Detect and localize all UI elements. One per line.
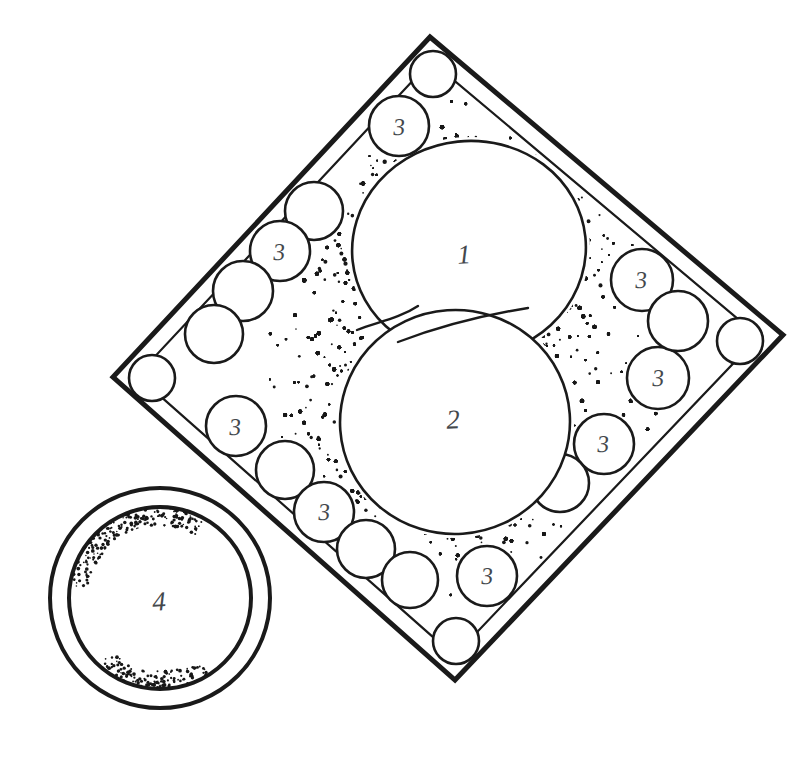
corner-circle <box>129 355 175 401</box>
satellite-circle <box>648 291 708 351</box>
reference-label-4: 4 <box>152 588 167 616</box>
reference-label-3: 3 <box>651 366 664 391</box>
figure-canvas <box>0 0 811 764</box>
satellite-circle <box>185 305 243 363</box>
reference-label-3: 3 <box>228 415 241 440</box>
reference-label-3: 3 <box>392 115 405 140</box>
corner-circle <box>410 51 456 97</box>
satellite-circle <box>382 552 438 608</box>
reference-label-3: 3 <box>634 268 647 293</box>
reference-label-3: 3 <box>596 432 609 457</box>
corner-circle <box>433 618 479 664</box>
corner-circle <box>717 318 763 364</box>
reference-label-2: 2 <box>446 406 461 434</box>
reference-label-1: 1 <box>457 241 472 269</box>
reference-label-3: 3 <box>272 240 285 265</box>
reference-label-3: 3 <box>317 500 330 525</box>
technical-drawing-figure: 12433333333 <box>0 0 811 764</box>
reference-label-3: 3 <box>480 564 493 589</box>
